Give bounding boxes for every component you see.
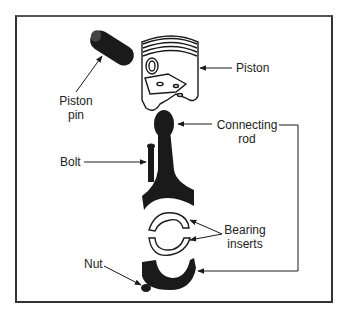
label-connecting-rod: Connecting rod [214,118,280,146]
label-connecting-rod-line2: rod [214,132,280,146]
label-bolt: Bolt [60,155,81,169]
label-bearing-inserts-line2: inserts [222,237,268,251]
label-piston-pin: Piston pin [56,94,96,122]
label-connecting-rod-line1: Connecting [214,118,280,132]
label-piston-pin-line1: Piston [56,94,96,108]
label-bearing-inserts-line1: Bearing [222,223,268,237]
piston-icon [142,36,198,110]
nut-leader [104,266,141,285]
label-bearing-inserts: Bearing inserts [222,223,268,251]
bolt-icon [147,144,155,183]
piston-pin-icon [86,27,137,69]
label-nut: Nut [84,257,103,271]
bearing-leader-upper [190,220,222,234]
bearing-inserts-icon [149,213,190,256]
label-piston: Piston [236,61,269,75]
diagram-artwork [0,0,344,313]
label-piston-pin-line2: pin [56,108,96,122]
bearing-leader-lower [190,234,222,240]
nut-icon [141,284,151,292]
rod-cap-icon [142,258,196,290]
piston-pin-leader [76,56,102,92]
